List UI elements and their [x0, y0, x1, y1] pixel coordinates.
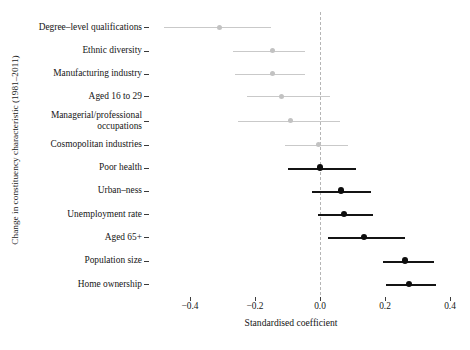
y-axis-tick [144, 145, 149, 146]
y-axis-tick [144, 51, 149, 52]
estimate-point [361, 234, 368, 241]
category-label: Cosmopolitan industries [51, 139, 142, 150]
y-axis-tick [144, 27, 149, 28]
estimate-point [406, 281, 413, 288]
estimate-point [270, 48, 275, 53]
estimate-point [288, 118, 293, 123]
category-label: Home ownership [78, 279, 142, 290]
category-label: Manufacturing industry [53, 68, 142, 79]
x-axis-title: Standardised coefficient [0, 317, 470, 328]
estimate-point [338, 187, 345, 194]
y-axis-tick [144, 168, 149, 169]
plot-panel: Degree–level qualificationsEthnic divers… [0, 0, 470, 310]
confidence-interval-bar [247, 96, 330, 97]
x-axis-tick-label: 0.4 [430, 301, 470, 311]
category-label: Degree–level qualifications [39, 22, 142, 33]
estimate-point [270, 71, 275, 76]
estimate-point [217, 25, 222, 30]
x-axis-tick-label: 0.2 [365, 301, 405, 311]
confidence-interval-bar [383, 261, 434, 263]
y-axis-tick [144, 214, 149, 215]
category-label: Ethnic diversity [82, 45, 142, 56]
y-axis-tick [144, 121, 149, 122]
x-axis-tick-label: −0.2 [235, 301, 275, 311]
category-label: Population size [84, 255, 142, 266]
estimate-point [341, 211, 348, 218]
x-axis-tick-label: 0.0 [300, 301, 340, 311]
x-axis-tick-label: −0.4 [170, 301, 210, 311]
category-label: Unemployment rate [67, 209, 142, 220]
category-label: Poor health [99, 162, 142, 173]
y-axis-tick [144, 284, 149, 285]
category-label: Managerial/professional occupations [51, 110, 142, 131]
category-label: Aged 65+ [105, 232, 142, 243]
estimate-point [317, 164, 324, 171]
y-axis-tick [144, 74, 149, 75]
y-axis-tick [144, 191, 149, 192]
estimate-point [402, 257, 409, 264]
zero-reference-line [320, 12, 321, 300]
confidence-interval-bar [233, 51, 305, 52]
category-label: Aged 16 to 29 [89, 91, 142, 102]
y-axis-tick [144, 237, 149, 238]
category-label: Urban–ness [98, 185, 142, 196]
y-axis-tick [144, 96, 149, 97]
estimate-point [316, 142, 321, 147]
y-axis-tick [144, 261, 149, 262]
estimate-point [279, 94, 284, 99]
coefficient-forest-plot: Change in constituency characteristic (1… [0, 0, 470, 350]
